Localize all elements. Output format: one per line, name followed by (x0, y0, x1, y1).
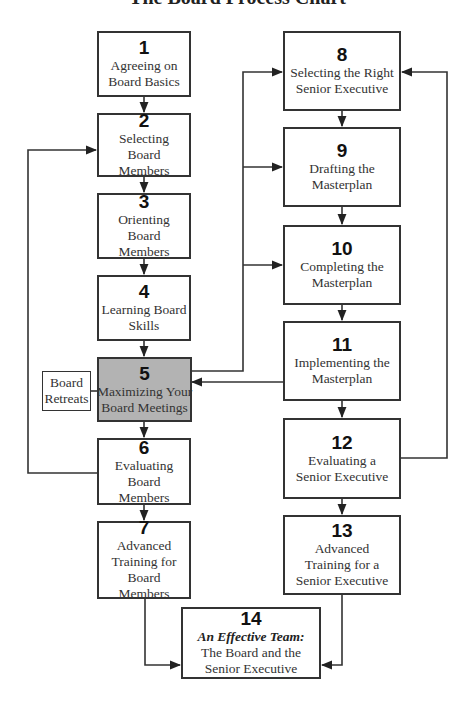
step-label: Masterplan (312, 371, 373, 387)
step-label: Board Members (101, 570, 187, 602)
step-number: 10 (331, 239, 352, 259)
side-note-label: Retreats (44, 391, 88, 407)
step-label: Senior Executive (296, 573, 389, 589)
step-4-box: 4 Learning Board Skills (97, 275, 191, 341)
step-13-box: 13 Advanced Training for a Senior Execut… (283, 515, 401, 595)
connector-lines (0, 0, 475, 707)
step-12-box: 12 Evaluating a Senior Executive (283, 418, 401, 499)
step-3-box: 3 Orienting Board Members (97, 193, 191, 259)
step-label: Masterplan (312, 275, 373, 291)
step-number: 2 (139, 111, 150, 131)
step-6-box: 6 Evaluating Board Members (97, 438, 191, 505)
step-number: 12 (331, 433, 352, 453)
step-number: 3 (139, 192, 150, 212)
step-2-box: 2 Selecting Board Members (97, 113, 191, 177)
step-11-box: 11 Implementing the Masterplan (283, 321, 401, 401)
step-label: Advanced (315, 541, 370, 557)
step-label: Board Basics (108, 74, 180, 90)
step-label: Implementing the (294, 355, 390, 371)
step-label: Board Meetings (101, 400, 188, 416)
step-label: Selecting the Right (290, 65, 394, 81)
loop-6-to-2 (28, 150, 97, 473)
step-label: Evaluating a (308, 453, 376, 469)
side-note-label: Board (50, 375, 83, 391)
step-label: Completing the (300, 259, 384, 275)
step-8-box: 8 Selecting the Right Senior Executive (283, 31, 401, 111)
step-label: Drafting the (309, 161, 375, 177)
step-number: 6 (139, 438, 150, 458)
step-number: 14 (240, 609, 261, 629)
branch-5-to-8 (191, 72, 282, 371)
step-label: Agreeing on (110, 58, 177, 74)
step-label: Senior Executive (296, 469, 389, 485)
step-label: Learning Board (101, 302, 186, 318)
step-number: 1 (139, 38, 150, 58)
step-number: 4 (139, 282, 150, 302)
step-9-box: 9 Drafting the Masterplan (283, 127, 401, 207)
step-number: 5 (139, 364, 150, 384)
step-label: Board Members (101, 474, 187, 506)
step-label: Skills (129, 318, 160, 334)
step-1-box: 1 Agreeing on Board Basics (97, 31, 191, 97)
step-label: Training for (111, 554, 176, 570)
step-label: Training for a (305, 557, 380, 573)
step-7-box: 7 Advanced Training for Board Members (97, 521, 191, 599)
step-label: Senior Executive (296, 81, 389, 97)
step-number: 8 (337, 45, 348, 65)
step-label: Advanced (117, 538, 172, 554)
arrow-13-to-14 (322, 595, 342, 665)
step-number: 11 (332, 335, 352, 355)
step-number: 9 (337, 141, 348, 161)
step-label: Orienting Board (101, 212, 187, 244)
step-label: Evaluating (115, 458, 173, 474)
step-label: Maximizing Your (97, 384, 192, 400)
step-label: The Board and the (201, 645, 301, 661)
step-14-box: 14 An Effective Team: The Board and the … (181, 607, 321, 679)
step-5-box-highlighted: 5 Maximizing Your Board Meetings (97, 357, 192, 422)
step-label: Members (119, 244, 170, 260)
step-label: Masterplan (312, 177, 373, 193)
step-number: 7 (139, 518, 150, 538)
step-emphasis: An Effective Team: (197, 629, 304, 645)
arrow-7-to-14 (145, 599, 180, 665)
loop-12-to-8 (401, 72, 447, 458)
step-label: Senior Executive (205, 661, 298, 677)
step-10-box: 10 Completing the Masterplan (283, 225, 401, 305)
step-label: Selecting Board (101, 131, 187, 163)
step-number: 13 (331, 521, 352, 541)
board-retreats-box: Board Retreats (42, 371, 91, 411)
step-label: Members (119, 163, 170, 179)
